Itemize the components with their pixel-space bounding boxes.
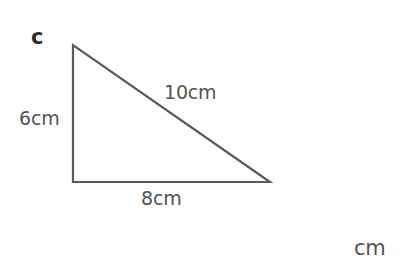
part-label-c: c xyxy=(31,27,43,48)
side-label-horizontal-leg: 8cm xyxy=(141,189,181,208)
triangle-outline xyxy=(73,45,270,182)
side-label-hypotenuse: 10cm xyxy=(164,83,216,102)
unit-label-cm: cm xyxy=(354,238,386,259)
geometry-figure: c 6cm 10cm 8cm cm xyxy=(0,0,400,265)
right-triangle-shape xyxy=(0,0,400,265)
side-label-vertical-leg: 6cm xyxy=(19,109,59,128)
